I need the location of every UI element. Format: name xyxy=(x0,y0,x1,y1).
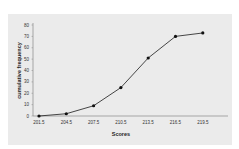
ogive-chart: 01020304050607080201.5204.5207.5210.5213… xyxy=(0,0,239,149)
x-axis-label: Scores xyxy=(112,131,130,137)
data-point-marker xyxy=(174,35,177,38)
x-tick-label: 216.5 xyxy=(170,120,182,125)
y-tick-label: 80 xyxy=(24,23,30,28)
x-tick-label: 210.5 xyxy=(115,120,127,125)
y-axis-label: cumulative frequency xyxy=(16,41,22,98)
y-tick-label: 10 xyxy=(24,102,30,107)
y-tick-label: 0 xyxy=(26,114,29,119)
y-tick-label: 50 xyxy=(24,57,30,62)
x-tick-label: 207.5 xyxy=(88,120,100,125)
x-tick-label: 204.5 xyxy=(61,120,73,125)
data-point-marker xyxy=(92,104,95,107)
y-tick-label: 60 xyxy=(24,45,30,50)
y-tick-label: 40 xyxy=(24,68,30,73)
y-tick-label: 20 xyxy=(24,91,30,96)
data-point-marker xyxy=(119,86,122,89)
data-line xyxy=(39,33,203,116)
data-point-marker xyxy=(37,114,40,117)
y-tick-label: 70 xyxy=(24,34,30,39)
y-tick-label: 30 xyxy=(24,79,30,84)
data-point-marker xyxy=(65,112,68,115)
data-point-marker xyxy=(201,31,204,34)
x-tick-label: 219.5 xyxy=(197,120,209,125)
data-point-marker xyxy=(147,56,150,59)
x-tick-label: 201.5 xyxy=(33,120,45,125)
x-tick-label: 213.5 xyxy=(143,120,155,125)
